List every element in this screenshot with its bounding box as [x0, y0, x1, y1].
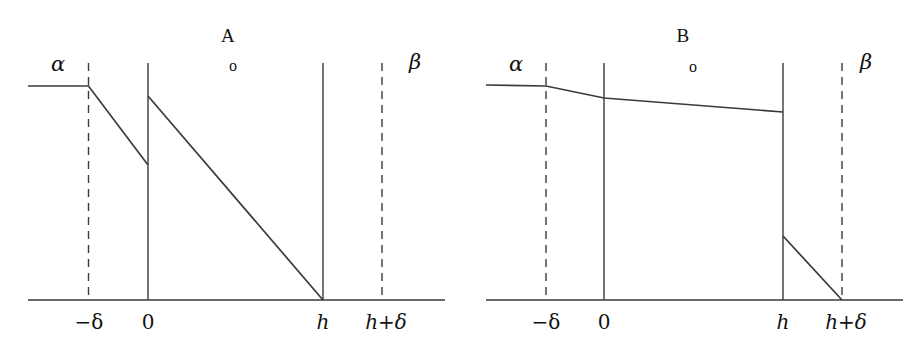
figure-container: A α o β −δ 0 h h+δ B [0, 0, 923, 343]
region-label-alpha-a: α [51, 54, 65, 75]
tick-label-minus-delta-a: −δ [75, 312, 104, 332]
tick-label-zero-a: 0 [142, 312, 155, 332]
curve-o-branch [148, 96, 323, 300]
region-label-o-a: o [229, 58, 237, 74]
panel-a-plot [0, 0, 462, 343]
tick-label-zero-b: 0 [598, 312, 611, 332]
region-label-o-b: o [689, 59, 697, 75]
tick-label-h-a: h [317, 312, 330, 332]
panel-b: B α o β −δ 0 h h+δ [461, 0, 923, 343]
curve-upper-branch [486, 85, 783, 112]
panel-b-plot [461, 0, 923, 343]
tick-label-h-plus-delta-b: h+δ [825, 312, 867, 332]
tick-label-h-plus-delta-a: h+δ [365, 312, 407, 332]
region-label-beta-a: β [409, 52, 421, 73]
region-label-beta-b: β [860, 52, 872, 73]
tick-label-minus-delta-b: −δ [532, 312, 561, 332]
panel-title-b: B [677, 26, 690, 45]
region-label-alpha-b: α [509, 54, 523, 75]
panel-a: A α o β −δ 0 h h+δ [0, 0, 462, 343]
curve-beta-branch [783, 236, 842, 300]
tick-label-h-b: h [777, 312, 790, 332]
panel-title-a: A [221, 26, 235, 45]
